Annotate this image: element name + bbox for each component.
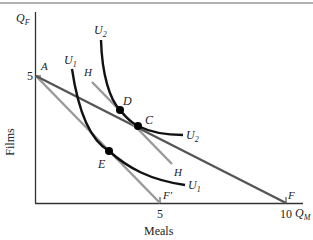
x-tick-label-5: 5 bbox=[157, 207, 163, 221]
label-U1-top: U1 bbox=[64, 53, 77, 69]
y-tick-label-5: 5 bbox=[27, 69, 33, 83]
label-H-top: H bbox=[83, 66, 93, 78]
y-axis-symbol: QF bbox=[16, 11, 30, 27]
label-C: C bbox=[145, 113, 154, 127]
indifference-diagram: QF QM 5 5 10 Meals Films A D C E F F′ U1… bbox=[0, 0, 313, 240]
label-D: D bbox=[122, 94, 132, 108]
label-H-end: H bbox=[173, 166, 183, 178]
point-C bbox=[134, 122, 142, 130]
indifference-curve-U2 bbox=[101, 40, 183, 135]
x-tick-label-10: 10 bbox=[280, 207, 292, 221]
y-axis-title: Films bbox=[3, 128, 17, 156]
indifference-curve-U1 bbox=[72, 69, 185, 185]
label-A: A bbox=[40, 60, 48, 72]
budget-line-AF bbox=[36, 76, 286, 203]
label-U1-end: U1 bbox=[188, 178, 201, 194]
budget-line-AFprime bbox=[36, 76, 160, 203]
label-F: F bbox=[287, 189, 295, 201]
x-axis-symbol: QM bbox=[295, 206, 312, 222]
label-F-prime: F′ bbox=[162, 189, 173, 201]
label-E: E bbox=[97, 157, 106, 171]
point-E bbox=[105, 147, 113, 155]
label-U2-end: U2 bbox=[186, 128, 199, 144]
x-axis-title: Meals bbox=[144, 224, 174, 238]
label-U2-top: U2 bbox=[94, 23, 107, 39]
